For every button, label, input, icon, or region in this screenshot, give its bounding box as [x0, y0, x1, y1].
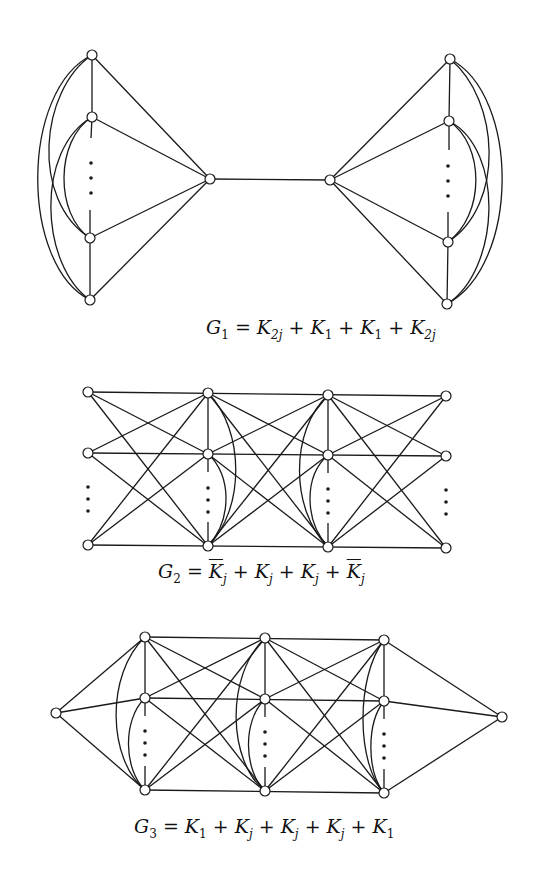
plus-sign: + [259, 815, 275, 837]
caption-g3-sub: 3 [149, 827, 157, 841]
term-sub: 1 [374, 328, 382, 342]
term-complement: K [347, 560, 361, 582]
caption-g2: G2 = Kj + Kj + Kj + Kj [158, 560, 365, 586]
term: K [373, 815, 387, 837]
term-complement: K [209, 560, 223, 582]
plus-sign: + [288, 316, 304, 338]
plus-sign: + [338, 316, 354, 338]
term-sub: j [361, 572, 365, 586]
term-sub: j [295, 827, 299, 841]
term: K [410, 316, 424, 338]
caption-g1: G1 = K2j + K1 + K1 + K2j [206, 316, 436, 342]
eq-sign: = [163, 815, 179, 837]
term-sub: j [315, 572, 319, 586]
plus-sign: + [233, 560, 249, 582]
term: K [257, 316, 271, 338]
term-sub: 2j [424, 328, 435, 342]
graph-g2 [83, 387, 451, 553]
term: K [310, 316, 324, 338]
term: K [255, 560, 269, 582]
term: K [281, 815, 295, 837]
plus-sign: + [351, 815, 367, 837]
term: K [235, 815, 249, 837]
term-sub: 1 [199, 827, 207, 841]
graph-g1 [38, 50, 502, 309]
eq-sign: = [235, 316, 251, 338]
term: K [327, 815, 341, 837]
term-sub: 1 [325, 328, 333, 342]
term-sub: j [223, 572, 227, 586]
term-sub: j [249, 827, 253, 841]
graph-g3 [51, 632, 507, 798]
plus-sign: + [279, 560, 295, 582]
caption-g3-label: G [134, 815, 149, 837]
plus-sign: + [305, 815, 321, 837]
term: K [301, 560, 315, 582]
term: K [185, 815, 199, 837]
caption-g2-label: G [158, 560, 173, 582]
graph-join-figure [0, 0, 538, 874]
eq-sign: = [187, 560, 203, 582]
term-sub: j [269, 572, 273, 586]
term-sub: 1 [387, 827, 395, 841]
plus-sign: + [388, 316, 404, 338]
caption-g1-label: G [206, 316, 221, 338]
plus-sign: + [213, 815, 229, 837]
caption-g1-sub: 1 [221, 328, 229, 342]
caption-g3: G3 = K1 + Kj + Kj + Kj + K1 [134, 815, 394, 841]
term: K [360, 316, 374, 338]
term-sub: j [341, 827, 345, 841]
plus-sign: + [325, 560, 341, 582]
caption-g2-sub: 2 [173, 572, 181, 586]
term-sub: 2j [271, 328, 282, 342]
